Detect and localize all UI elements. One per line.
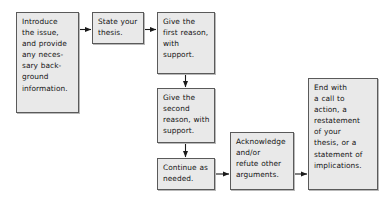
flowchart-node-second-reason: Give the second reason, with support.	[157, 88, 215, 143]
flowchart-node-thesis-label: State your thesis.	[98, 16, 139, 38]
flowchart-node-thesis: State your thesis.	[92, 12, 144, 44]
flowchart-node-acknowledge-label: Acknowledge and/or refute other argument…	[236, 136, 289, 180]
flowchart-node-end-label: End with a call to action, a restatement…	[314, 82, 373, 171]
flowchart-node-introduce: Introduce the issue, and provide any nec…	[16, 12, 79, 113]
flowchart-node-continue-label: Continue as needed.	[163, 162, 210, 184]
flowchart-diagram: Introduce the issue, and provide any nec…	[0, 0, 387, 199]
flowchart-node-acknowledge: Acknowledge and/or refute other argument…	[230, 132, 294, 190]
flowchart-node-second-reason-label: Give the second reason, with support.	[163, 92, 210, 136]
flowchart-node-continue: Continue as needed.	[157, 158, 215, 190]
flowchart-node-introduce-label: Introduce the issue, and provide any nec…	[22, 16, 74, 94]
flowchart-node-end: End with a call to action, a restatement…	[308, 78, 378, 190]
flowchart-node-first-reason: Give the first reason, with support.	[157, 12, 215, 74]
flowchart-node-first-reason-label: Give the first reason, with support.	[163, 16, 210, 60]
